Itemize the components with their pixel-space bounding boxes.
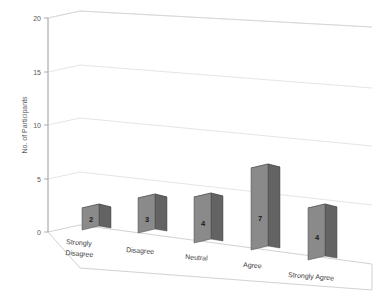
x-label-strongly-disagree: Strongly Disagree xyxy=(65,238,94,259)
gridlines xyxy=(48,11,372,205)
x-label-line1: Disagree xyxy=(126,246,155,256)
bar-side-face xyxy=(268,164,280,248)
bar-strongly-agree[interactable]: 4 xyxy=(308,204,337,260)
x-label-neutral: Neutral xyxy=(185,253,208,262)
y-axis-title: No. of Participants xyxy=(21,96,29,154)
gridline-20 xyxy=(48,11,372,27)
chart-canvas: 20 15 10 5 0 No. of Participants 2 3 4 7 xyxy=(0,0,390,296)
x-label-disagree: Disagree xyxy=(126,246,155,256)
gridline-10 xyxy=(48,118,372,146)
bar-value-label: 2 xyxy=(89,215,93,224)
x-label-strongly-agree: Strongly Agree xyxy=(288,271,334,282)
x-label-agree: Agree xyxy=(243,261,262,270)
bar-agree[interactable]: 7 xyxy=(251,164,280,250)
y-axis xyxy=(44,18,48,232)
bar-side-face xyxy=(99,204,111,228)
x-label-line2: Disagree xyxy=(65,249,94,259)
bar-front-face xyxy=(251,164,268,250)
bar-strongly-disagree[interactable]: 2 xyxy=(82,204,111,230)
y-tick-labels: 20 15 10 5 0 xyxy=(33,15,41,236)
bar-chart: 20 15 10 5 0 No. of Participants 2 3 4 7 xyxy=(0,0,390,296)
gridline-15 xyxy=(48,65,372,88)
bar-neutral[interactable]: 4 xyxy=(194,193,223,243)
y-tick-label-20: 20 xyxy=(33,15,41,22)
bar-front-face xyxy=(308,204,325,260)
x-label-line1: Strongly Agree xyxy=(288,271,334,282)
x-axis-labels: Strongly Disagree Disagree Neutral Agree… xyxy=(65,238,334,282)
bar-side-face xyxy=(325,204,337,258)
y-tick-label-0: 0 xyxy=(37,229,41,236)
y-tick-label-15: 15 xyxy=(33,69,41,76)
bar-front-face xyxy=(194,193,211,243)
y-tick-label-5: 5 xyxy=(37,176,41,183)
x-label-line1: Strongly xyxy=(66,238,93,248)
bar-side-face xyxy=(211,193,223,241)
x-label-line1: Neutral xyxy=(185,253,208,262)
x-label-line1: Agree xyxy=(243,261,262,270)
bar-value-label: 3 xyxy=(145,215,149,224)
bar-disagree[interactable]: 3 xyxy=(138,194,167,233)
y-tick-label-10: 10 xyxy=(33,122,41,129)
bar-value-label: 7 xyxy=(258,214,262,223)
bar-side-face xyxy=(155,194,167,231)
bar-front-face xyxy=(138,194,155,233)
